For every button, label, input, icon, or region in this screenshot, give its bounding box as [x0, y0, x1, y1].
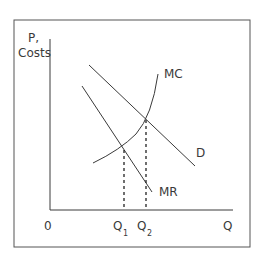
marginal-cost-curve: [93, 74, 158, 163]
y-axis-label-costs: Costs: [18, 46, 51, 60]
x-axis-label: Q: [223, 219, 232, 233]
mr-label: MR: [159, 185, 178, 199]
mc-label: MC: [164, 67, 183, 81]
q1-subscript: 1: [123, 229, 128, 238]
d-label: D: [196, 146, 205, 160]
q2-subscript: 2: [147, 229, 152, 238]
y-axis-label-p: P,: [28, 31, 39, 45]
monopoly-diagram: P, Costs MC D MR 0 Q 1 Q 2 Q: [0, 0, 262, 258]
q1-label: Q: [113, 219, 122, 233]
q2-label: Q: [137, 219, 146, 233]
marginal-revenue-curve: [82, 86, 152, 192]
origin-label: 0: [44, 219, 52, 233]
